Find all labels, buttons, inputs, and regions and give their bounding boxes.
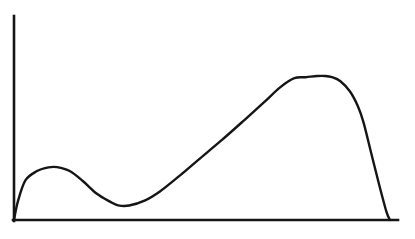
plot-background	[0, 0, 415, 239]
chart-figure: Line graph on plain left and bottom axes…	[0, 0, 415, 239]
line-chart-plot	[0, 0, 415, 239]
